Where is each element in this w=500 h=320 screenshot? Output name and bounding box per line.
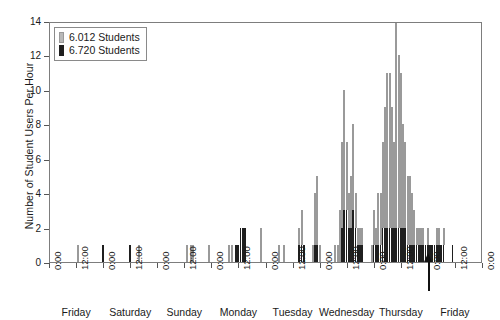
bar [231,245,233,262]
x-axis-tick [374,263,375,268]
x-axis-tick [76,263,77,268]
bar [102,245,104,262]
bar-segment-6012 [438,228,440,245]
bar [260,228,262,262]
x-axis-tick [49,263,50,268]
x-axis-tick-label: 12:00 [80,246,90,270]
bar-segment-6012 [361,228,363,245]
x-axis-tick-label: 0:00 [378,252,388,271]
y-axis-tick [44,160,49,161]
bar-segment-6012 [443,228,445,245]
bar-segment-6012 [260,228,262,262]
bar [129,245,131,262]
bar-segment-6012 [283,245,285,262]
x-axis-tick-label: 12:00 [188,246,198,270]
y-axis-tick-label: 2 [1,224,41,234]
x-axis-tick [266,263,267,268]
bar [208,245,210,262]
bar [283,245,285,262]
x-axis-day-label: Friday [415,307,495,318]
y-axis-tick-label: 14 [1,17,41,27]
bar-segment-6012 [301,210,303,244]
y-axis-tick [44,91,49,92]
y-axis-tick-label: 8 [1,120,41,130]
bar-segment-6720 [102,245,104,262]
y-axis-tick-label: 6 [1,155,41,165]
x-axis-tick-label: 12:00 [242,246,252,270]
y-axis-tick [44,56,49,57]
legend-item-label: 6.012 Students [69,32,140,43]
x-axis-tick [455,263,456,268]
x-axis-tick [157,263,158,268]
bar-segment-6012 [355,193,357,227]
y-axis-tick-label: 4 [1,189,41,199]
x-axis-tick [320,263,321,268]
x-axis-tick [293,263,294,268]
x-axis-tick-label: 0:00 [486,252,496,271]
bar-segment-6012 [427,228,429,245]
x-axis-tick-label: 12:00 [297,246,307,270]
legend-swatch-icon [59,32,64,43]
x-axis-tick [103,263,104,268]
bar-segment-6720 [452,245,454,262]
y-axis-tick [44,194,49,195]
y-axis-tick-label: 10 [1,86,41,96]
x-axis-tick [184,263,185,268]
x-axis-tick [347,263,348,268]
legend-swatch-icon [59,45,64,56]
bar-segment-6720 [443,245,445,262]
x-axis-tick-label: 0:00 [270,252,280,271]
x-axis-tick-label: 0:00 [324,252,334,271]
bar-segment-6720 [361,245,363,262]
y-axis-tick-label: 12 [1,51,41,61]
bar [452,245,454,262]
bar [361,228,363,262]
x-axis-tick [238,263,239,268]
x-axis-tick-label: 0:00 [432,252,442,271]
x-axis-tick [482,263,483,268]
chart-figure: Number of Student Users Per Hour 0246810… [0,0,500,320]
chart-legend: 6.012 Students 6.720 Students [54,27,147,61]
y-axis-tick-label: 0 [1,258,41,268]
arrow-shaft [428,261,430,291]
x-axis-tick-label: 12:00 [134,246,144,270]
x-axis-tick-label: 12:00 [405,246,415,270]
x-axis-tick-label: 0:00 [53,252,63,271]
x-axis-tick-label: 0:00 [107,252,117,271]
x-axis-tick [130,263,131,268]
bar-segment-6720 [129,245,131,262]
y-axis-tick [44,125,49,126]
bar [443,228,445,262]
bar-segment-6012 [422,228,424,245]
bar-segment-6012 [316,176,318,245]
legend-item-label: 6.720 Students [69,45,140,56]
bar-segment-6012 [208,245,210,262]
y-axis-tick [44,229,49,230]
legend-item: 6.720 Students [59,44,140,57]
x-axis-tick [401,263,402,268]
bar [319,245,321,262]
x-axis-tick-label: 12:00 [351,246,361,270]
legend-item: 6.012 Students [59,31,140,44]
y-axis-tick [44,22,49,23]
x-axis-tick-label: 0:00 [161,252,171,271]
x-axis-tick [211,263,212,268]
bar-segment-6012 [231,245,233,262]
bar-segment-6012 [319,245,321,262]
x-axis-tick-label: 0:00 [215,252,225,271]
x-axis-tick-label: 12:00 [459,246,469,270]
